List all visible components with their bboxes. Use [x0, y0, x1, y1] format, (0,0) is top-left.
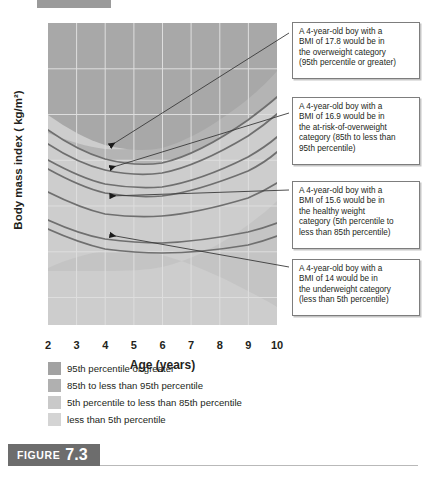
legend-item-85th: 85th to less than 95th percentile — [48, 377, 378, 393]
callout-at-risk-line-5: 95th percentile) — [299, 144, 414, 154]
callout-underweight-line-1: A 4-year-old boy with a — [299, 264, 414, 274]
callout-underweight-line-2: BMI of 14 would be in — [299, 274, 414, 284]
plot-area — [48, 23, 277, 325]
xtick-3: 3 — [67, 339, 87, 351]
legend-swatch-95th — [48, 362, 61, 375]
callout-healthy-line-3: the healthy weight — [299, 207, 414, 217]
callout-underweight: A 4-year-old boy with a BMI of 14 would … — [292, 259, 420, 316]
legend-item-95th: 95th percentile or greater — [48, 360, 378, 376]
callout-healthy-line-2: BMI of 15.6 would be in — [299, 196, 414, 206]
callout-overweight-line-4: (95th percentile or greater) — [299, 58, 414, 68]
callout-underweight-line-3: the underweight category — [299, 285, 414, 295]
legend-swatch-under-5th — [48, 413, 61, 426]
legend-label-95th: 95th percentile or greater — [67, 362, 174, 375]
callout-healthy-line-1: A 4-year-old boy with a — [299, 186, 414, 196]
callout-overweight-line-2: BMI of 17.8 would be in — [299, 37, 414, 47]
figure-word: FIGURE — [17, 449, 60, 461]
xtick-2: 2 — [38, 339, 58, 351]
legend-item-5th: 5th percentile to less than 85th percent… — [48, 394, 378, 410]
callout-overweight: A 4-year-old boy with a BMI of 17.8 woul… — [292, 22, 420, 79]
callout-overweight-line-3: the overweight category — [299, 48, 414, 58]
xtick-8: 8 — [210, 339, 230, 351]
xtick-4: 4 — [95, 339, 115, 351]
xtick-9: 9 — [238, 339, 258, 351]
callout-at-risk: A 4-year-old boy with a BMI of 16.9 woul… — [292, 97, 420, 165]
legend: 95th percentile or greater 85th to less … — [48, 360, 378, 428]
callout-overweight-line-1: A 4-year-old boy with a — [299, 27, 414, 37]
callout-healthy-line-5: less than 85th percentile) — [299, 228, 414, 238]
legend-swatch-5th — [48, 396, 61, 409]
chart-svg — [48, 23, 277, 325]
callout-at-risk-line-3: the at-risk-of-overweight — [299, 123, 414, 133]
legend-label-85th: 85th to less than 95th percentile — [67, 379, 203, 392]
figure-number: 7.3 — [65, 447, 87, 463]
callout-at-risk-line-2: BMI of 16.9 would be in — [299, 112, 414, 122]
legend-swatch-85th — [48, 379, 61, 392]
xtick-10: 10 — [267, 339, 287, 351]
bmi-growth-chart: 24 22 20 18 16 14 12 Body mass index ( k… — [0, 14, 290, 324]
xtick-5: 5 — [124, 339, 144, 351]
callout-underweight-line-4: (less than 5th percentile) — [299, 295, 414, 305]
top-gray-bar — [37, 0, 111, 8]
legend-item-under-5th: less than 5th percentile — [48, 411, 378, 427]
callout-healthy-line-4: category (5th percentile to — [299, 217, 414, 227]
figure-caption-bar: FIGURE 7.3 — [8, 444, 100, 466]
callout-at-risk-line-1: A 4-year-old boy with a — [299, 102, 414, 112]
legend-label-5th: 5th percentile to less than 85th percent… — [67, 396, 242, 409]
xtick-6: 6 — [153, 339, 173, 351]
figure-rule — [100, 465, 418, 466]
callout-at-risk-line-4: category (85th to less than — [299, 133, 414, 143]
callout-healthy: A 4-year-old boy with a BMI of 15.6 woul… — [292, 181, 420, 249]
legend-label-under-5th: less than 5th percentile — [67, 413, 166, 426]
y-axis-label: Body mass index ( kg/m²) — [12, 60, 24, 260]
xtick-7: 7 — [181, 339, 201, 351]
